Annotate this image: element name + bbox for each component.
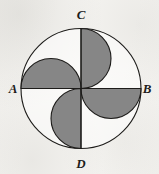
label-d: D — [75, 156, 86, 171]
label-b: B — [142, 81, 152, 96]
label-a: A — [8, 81, 18, 96]
figure-container: A B C D — [0, 0, 159, 174]
label-c: C — [77, 7, 86, 22]
geometry-diagram: A B C D — [0, 0, 159, 174]
